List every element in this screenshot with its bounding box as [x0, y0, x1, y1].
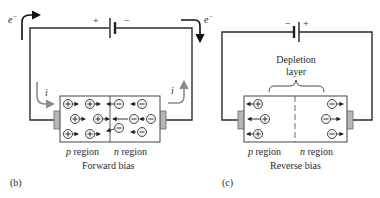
- reverse-battery-plus: +: [303, 18, 309, 29]
- hole-icon: [64, 100, 73, 109]
- hole-icon: [64, 130, 73, 139]
- hole-icon: [86, 130, 95, 139]
- depletion-label-line2: layer: [286, 66, 307, 77]
- forward-bias-caption: Forward bias: [82, 160, 135, 171]
- electron-icon: [115, 100, 124, 109]
- forward-electron-label-left: e−: [8, 13, 17, 25]
- forward-electron-label-right: e−: [204, 13, 213, 25]
- reverse-bias-caption: Reverse bias: [270, 160, 321, 171]
- electron-icon: [138, 128, 147, 137]
- hole-icon: [71, 115, 80, 124]
- hole-icon: [254, 100, 263, 109]
- forward-battery-minus: −: [124, 15, 130, 26]
- forward-bias-circuit: + − e− e− i i: [8, 13, 213, 189]
- forward-current-label-right: i: [171, 85, 174, 96]
- electron-icon: [130, 115, 139, 124]
- reverse-n-region-label: n region: [300, 146, 333, 157]
- forward-battery-icon: [110, 18, 115, 38]
- reverse-battery-icon: [294, 22, 299, 42]
- reverse-battery-minus: −: [285, 18, 291, 29]
- electron-flow-arrow-right-icon: [181, 20, 200, 40]
- forward-current-label-left: i: [45, 87, 48, 98]
- hole-icon: [86, 100, 95, 109]
- forward-p-region-label: p region: [65, 146, 99, 157]
- panel-label-c: (c): [222, 177, 233, 189]
- panel-label-b: (b): [10, 177, 22, 189]
- depletion-brace-icon: [269, 80, 324, 92]
- hole-icon: [94, 115, 103, 124]
- forward-battery-plus: +: [93, 15, 99, 26]
- hole-icon: [261, 115, 270, 124]
- forward-n-region-label: n region: [114, 146, 147, 157]
- hole-icon: [254, 130, 263, 139]
- electron-icon: [138, 100, 147, 109]
- electron-icon: [328, 100, 337, 109]
- electron-icon: [147, 115, 156, 124]
- electron-icon: [115, 124, 124, 133]
- electron-icon: [322, 115, 331, 124]
- reverse-bias-circuit: − + Depletion layer p region n region Re…: [222, 18, 372, 189]
- depletion-label-line1: Depletion: [276, 54, 315, 65]
- reverse-p-region-label: p region: [247, 146, 281, 157]
- diode-bias-diagram: + − e− e− i i: [0, 0, 380, 198]
- electron-icon: [328, 130, 337, 139]
